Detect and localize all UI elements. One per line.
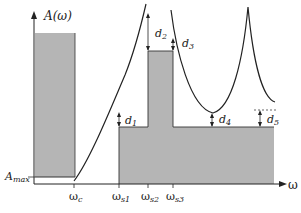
- d4-arrow-up-icon: [210, 113, 214, 118]
- d2-arrow-down-icon: [146, 46, 150, 51]
- d3-arrow-up-icon: [171, 38, 175, 43]
- d4-label: d4: [219, 113, 231, 127]
- d1-arrow-down-icon: [117, 122, 121, 127]
- d3-label: d3: [182, 37, 194, 51]
- d5-label: d5: [267, 113, 279, 127]
- d4-arrow-down-icon: [210, 122, 214, 127]
- d3-arrow-down-icon: [171, 46, 175, 51]
- tick-label-ws2: ωs2: [141, 190, 159, 204]
- d1-arrow-up-icon: [117, 112, 121, 117]
- y-axis-label: A(ω): [43, 9, 72, 23]
- x-axis-arrow-icon: [279, 181, 287, 187]
- tick-label-wc: ωc: [69, 190, 83, 204]
- y-axis-arrow-icon: [31, 11, 37, 19]
- d5-arrow-up-icon: [258, 110, 262, 115]
- tick-label-ws1: ωs1: [112, 190, 130, 204]
- tick-label-ws3: ωs3: [166, 190, 184, 204]
- passband-region: [35, 33, 75, 184]
- stopband-region: [119, 51, 274, 184]
- amax-label: Amax: [4, 170, 30, 184]
- d5-arrow-down-icon: [258, 122, 262, 127]
- amax-gap: [35, 177, 75, 184]
- d1-label: d1: [125, 114, 137, 128]
- x-axis-label: ω: [288, 178, 298, 192]
- attenuation-curve-notches: [171, 7, 275, 113]
- attenuation-diagram: A(ω) ω Amax ωc ωs1 ωs2 ωs3 d1 d2 d3 d4 d…: [0, 0, 301, 213]
- d2-label: d2: [155, 27, 167, 41]
- d2-arrow-up-icon: [146, 13, 150, 18]
